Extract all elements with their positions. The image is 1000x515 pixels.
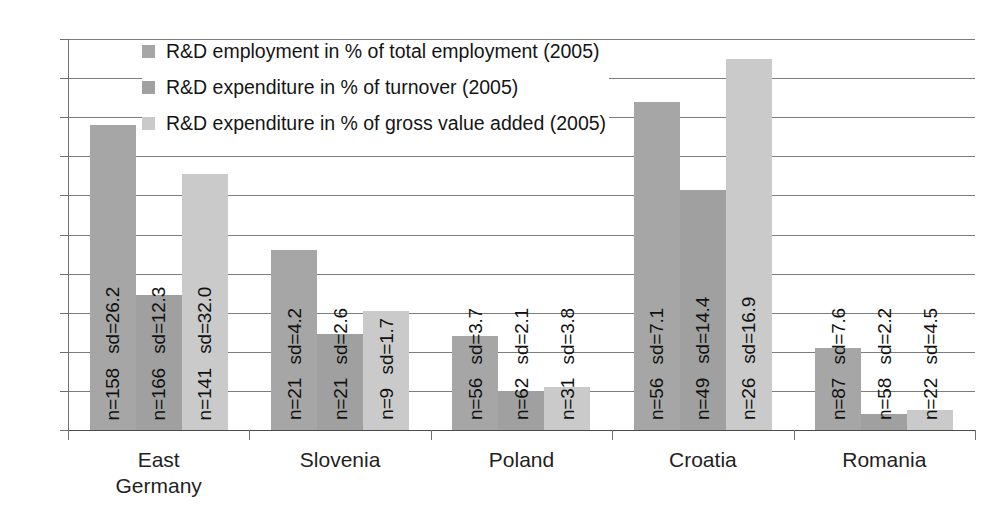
legend-item[interactable]: R&D expenditure in % of turnover (2005): [142, 76, 609, 99]
legend-item[interactable]: R&D employment in % of total employment …: [142, 40, 609, 63]
bar-value-labels: sd=7.1n=56: [634, 102, 680, 430]
bar-sd-label: sd=2.2: [875, 308, 894, 364]
bar-chart: 012345678910 sd=26.2n=158sd=12.3n=166sd=…: [0, 0, 1000, 515]
bar[interactable]: sd=2.2n=58: [861, 414, 907, 430]
bar-value-labels: sd=2.2n=58: [861, 414, 907, 430]
bar[interactable]: sd=2.1n=62: [498, 391, 544, 430]
bar-n-label: n=87: [829, 378, 848, 420]
bar-sd-label: sd=1.7: [377, 318, 396, 374]
bar[interactable]: sd=4.5n=22: [907, 410, 953, 430]
bar-n-label: n=21: [331, 378, 350, 420]
bar-group-bars: sd=7.6n=87sd=2.2n=58sd=4.5n=22: [794, 39, 975, 430]
bar-value-labels: sd=14.4n=49: [680, 190, 726, 430]
bar-sd-label: sd=4.5: [921, 308, 940, 364]
x-axis-category-label: Romania: [794, 447, 975, 473]
bar-sd-label: sd=3.8: [558, 308, 577, 364]
chart-legend: R&D employment in % of total employment …: [142, 40, 609, 135]
legend-label: R&D employment in % of total employment …: [166, 41, 600, 62]
bar-sd-label: sd=26.2: [103, 287, 122, 354]
x-axis-tick-mark: [975, 430, 976, 440]
bar[interactable]: sd=1.7n=9: [363, 311, 409, 430]
bar-value-labels: sd=4.2n=21: [271, 250, 317, 430]
x-axis-tick-mark: [68, 430, 69, 440]
legend-swatch-icon: [142, 117, 155, 130]
bar[interactable]: sd=32.0n=141: [182, 174, 228, 430]
bar-group-bars: sd=7.1n=56sd=14.4n=49sd=16.9n=26: [612, 39, 793, 430]
bar[interactable]: sd=4.2n=21: [271, 250, 317, 430]
x-axis-line: [68, 430, 975, 431]
bar-n-label: n=158: [103, 368, 122, 420]
bar-sd-label: sd=2.1: [512, 308, 531, 364]
bar-n-label: n=22: [921, 378, 940, 420]
bar[interactable]: sd=3.8n=31: [544, 387, 590, 430]
bar-sd-label: sd=7.1: [647, 308, 666, 364]
bar[interactable]: sd=16.9n=26: [726, 59, 772, 430]
bar-n-label: n=58: [875, 378, 894, 420]
x-axis-category-label: Croatia: [612, 447, 793, 473]
bar-value-labels: sd=7.6n=87: [815, 348, 861, 430]
bar-sd-label: sd=4.2: [285, 308, 304, 364]
bar-sd-label: sd=2.6: [331, 308, 350, 364]
bar[interactable]: sd=26.2n=158: [90, 125, 136, 430]
bar-value-labels: sd=12.3n=166: [136, 295, 182, 430]
bar[interactable]: sd=7.6n=87: [815, 348, 861, 430]
bar-n-label: n=62: [512, 378, 531, 420]
bar[interactable]: sd=7.1n=56: [634, 102, 680, 430]
bar[interactable]: sd=14.4n=49: [680, 190, 726, 430]
bar[interactable]: sd=12.3n=166: [136, 295, 182, 430]
bar[interactable]: sd=3.7n=56: [452, 336, 498, 430]
bar-value-labels: sd=2.6n=21: [317, 334, 363, 430]
bar-value-labels: sd=26.2n=158: [90, 125, 136, 430]
bar[interactable]: sd=2.6n=21: [317, 334, 363, 430]
bar-value-labels: sd=4.5n=22: [907, 410, 953, 430]
bar-n-label: n=49: [693, 378, 712, 420]
bar-sd-label: sd=16.9: [739, 297, 758, 364]
bar-n-label: n=141: [195, 368, 214, 420]
legend-swatch-icon: [142, 81, 155, 94]
bar-group: sd=7.1n=56sd=14.4n=49sd=16.9n=26: [612, 39, 793, 430]
x-axis-tick-mark: [794, 430, 795, 440]
bar-n-label: n=21: [285, 378, 304, 420]
bar-group: sd=7.6n=87sd=2.2n=58sd=4.5n=22: [794, 39, 975, 430]
legend-swatch-icon: [142, 45, 155, 58]
legend-label: R&D expenditure in % of turnover (2005): [166, 77, 518, 98]
x-axis-tick-mark: [612, 430, 613, 440]
x-axis-tick-mark: [431, 430, 432, 440]
bar-value-labels: sd=1.7n=9: [363, 311, 409, 430]
bar-value-labels: sd=3.7n=56: [452, 336, 498, 430]
bar-sd-label: sd=12.3: [149, 287, 168, 354]
bar-value-labels: sd=32.0n=141: [182, 174, 228, 430]
bar-value-labels: sd=2.1n=62: [498, 391, 544, 430]
bar-n-label: n=9: [377, 388, 396, 420]
x-axis-category-label: EastGermany: [68, 447, 249, 499]
bar-n-label: n=56: [647, 378, 666, 420]
bar-n-label: n=31: [558, 378, 577, 420]
bar-sd-label: sd=32.0: [195, 287, 214, 354]
legend-item[interactable]: R&D expenditure in % of gross value adde…: [142, 112, 609, 135]
x-axis-tick-mark: [249, 430, 250, 440]
x-axis-category-label: Slovenia: [249, 447, 430, 473]
x-axis-category-label: Poland: [431, 447, 612, 473]
legend-label: R&D expenditure in % of gross value adde…: [166, 113, 606, 134]
bar-n-label: n=166: [149, 368, 168, 420]
bar-n-label: n=56: [466, 378, 485, 420]
bar-sd-label: sd=7.6: [829, 308, 848, 364]
bar-value-labels: sd=3.8n=31: [544, 387, 590, 430]
bar-sd-label: sd=3.7: [466, 308, 485, 364]
bar-sd-label: sd=14.4: [693, 297, 712, 364]
bar-value-labels: sd=16.9n=26: [726, 59, 772, 430]
bar-n-label: n=26: [739, 378, 758, 420]
